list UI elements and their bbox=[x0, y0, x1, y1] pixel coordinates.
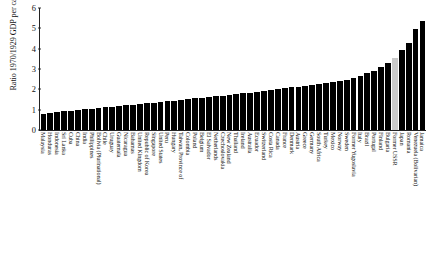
x-tick-label-slot: China bbox=[75, 131, 81, 255]
x-tick-label-slot: Ireland bbox=[240, 131, 246, 255]
x-tick-label: Indonesia bbox=[54, 132, 60, 155]
x-tick-label-slot: Former Yugoslavia bbox=[351, 131, 357, 255]
x-tick-label: Norway bbox=[337, 132, 343, 151]
x-tick-label: Jamaica bbox=[419, 132, 425, 151]
x-tick-label-slot: Jamaica bbox=[420, 131, 426, 255]
bar bbox=[364, 73, 370, 130]
x-tick-label-slot: Sweden bbox=[344, 131, 350, 255]
x-tick-label: Thailand bbox=[233, 132, 239, 153]
x-tick-label-slot: Poland bbox=[192, 131, 198, 255]
bar bbox=[206, 97, 212, 130]
bar bbox=[420, 21, 426, 130]
y-tick-label: 3 bbox=[32, 65, 36, 74]
x-tick-label: Former Yugoslavia bbox=[350, 132, 356, 176]
x-tick-label-slot: South Africa bbox=[316, 131, 322, 255]
x-tick-label: Poland bbox=[192, 132, 198, 148]
x-tick-label-slot: India bbox=[82, 131, 88, 255]
x-axis-tick-labels: MalaysiaHondurasIndonesiaSri LankaCubaCh… bbox=[40, 131, 426, 255]
x-tick-label-slot: Nicaragua bbox=[123, 131, 129, 255]
x-tick-label: Peru bbox=[164, 132, 170, 143]
x-tick-label-slot: Sri Lanka bbox=[61, 131, 67, 255]
x-tick-label: Bahamas bbox=[130, 132, 136, 154]
x-tick-label-slot: Bulgaria bbox=[385, 131, 391, 255]
x-tick-label: India bbox=[82, 132, 88, 144]
x-tick-label-slot: Taiwan, Province of bbox=[178, 131, 184, 255]
bar bbox=[137, 104, 143, 130]
x-tick-label-slot: Germany bbox=[309, 131, 315, 255]
y-tick-label: 5 bbox=[32, 24, 36, 33]
x-tick-label: Mexico bbox=[330, 132, 336, 150]
bar bbox=[233, 94, 239, 130]
x-tick-label: Greece bbox=[302, 132, 308, 149]
x-tick-label: Cuba bbox=[68, 132, 74, 144]
y-tick-label: 2 bbox=[32, 85, 36, 94]
x-tick-label: Ireland bbox=[240, 132, 246, 148]
bar bbox=[54, 112, 60, 130]
bar bbox=[130, 105, 136, 130]
x-tick-label: Colombia bbox=[185, 132, 191, 155]
x-tick-label: Honduras bbox=[47, 132, 53, 155]
x-tick-label-slot: Austria bbox=[296, 131, 302, 255]
bar bbox=[378, 67, 384, 130]
x-tick-label: Denmark bbox=[288, 132, 294, 154]
bar bbox=[337, 81, 343, 130]
x-tick-label: United States bbox=[157, 132, 163, 163]
x-tick-label-slot: Venezuela (Bolivarian) bbox=[413, 131, 419, 255]
x-tick-label: Sri Lanka bbox=[61, 132, 67, 155]
bar bbox=[358, 76, 364, 130]
bar bbox=[192, 98, 198, 130]
x-tick-label: Former USSR bbox=[392, 132, 398, 166]
bar bbox=[254, 92, 260, 130]
bar bbox=[151, 103, 157, 130]
x-tick-label: Switzerland bbox=[261, 132, 267, 160]
bar bbox=[330, 82, 336, 130]
bar bbox=[185, 99, 191, 130]
x-tick-label-slot: El Salvador bbox=[206, 131, 212, 255]
bar bbox=[240, 93, 246, 130]
x-tick-label-slot: Malaysia bbox=[41, 131, 47, 255]
x-tick-label: Republic of Korea bbox=[144, 132, 150, 175]
x-tick-label-slot: United Kingdom bbox=[137, 131, 143, 255]
x-tick-label: Ecuador bbox=[254, 132, 260, 152]
x-tick-label-slot: Japan bbox=[399, 131, 405, 255]
x-tick-label: Malaysia bbox=[40, 132, 46, 153]
x-tick-label: Turkey bbox=[323, 132, 329, 149]
y-tick-label: 1 bbox=[32, 105, 36, 114]
x-tick-label-slot: Greece bbox=[302, 131, 308, 255]
x-tick-label-slot: Netherlands bbox=[213, 131, 219, 255]
x-tick-label: Czechoslovakia bbox=[219, 132, 225, 169]
bar bbox=[75, 110, 81, 130]
x-tick-label: Italy bbox=[357, 132, 363, 143]
bar bbox=[171, 101, 177, 130]
x-tick-label: Taiwan, Province of bbox=[178, 132, 184, 179]
bar bbox=[351, 78, 357, 130]
x-tick-label-slot: Brazil bbox=[364, 131, 370, 255]
x-tick-label: France bbox=[282, 132, 288, 148]
x-tick-label-slot: Honduras bbox=[47, 131, 53, 255]
x-tick-label: China bbox=[75, 132, 81, 146]
bar bbox=[96, 108, 102, 130]
x-tick-label-slot: Guatemala bbox=[116, 131, 122, 255]
x-tick-label-slot: Portugal bbox=[371, 131, 377, 255]
x-tick-label: Finland bbox=[378, 132, 384, 150]
bar bbox=[213, 96, 219, 130]
x-tick-label-slot: United States bbox=[158, 131, 164, 255]
x-tick-label: South Africa bbox=[316, 132, 322, 162]
x-tick-label: Australia bbox=[247, 132, 253, 153]
bar bbox=[344, 80, 350, 130]
bar bbox=[103, 107, 109, 130]
chart-figure: Ratio 1970/1929 GDP per capita 0123456 M… bbox=[0, 0, 433, 256]
bar bbox=[199, 98, 205, 130]
bar bbox=[275, 89, 281, 130]
x-tick-label-slot: Ecuador bbox=[254, 131, 260, 255]
bar bbox=[289, 87, 295, 130]
bar-series bbox=[40, 8, 426, 130]
x-tick-label-slot: Italy bbox=[358, 131, 364, 255]
y-tick-label: 0 bbox=[32, 126, 36, 135]
bar bbox=[247, 93, 253, 130]
y-tick-label: 4 bbox=[32, 44, 36, 53]
x-tick-label-slot: Czechoslovakia bbox=[220, 131, 226, 255]
x-tick-label: Brazil bbox=[364, 132, 370, 146]
x-tick-label: Costa Rica bbox=[268, 132, 274, 157]
bar bbox=[123, 105, 129, 130]
